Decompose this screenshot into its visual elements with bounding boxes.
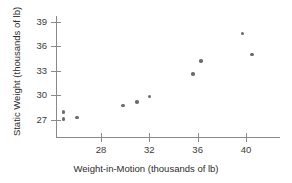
data-point xyxy=(191,72,195,76)
y-axis-title: Static Weight (thousands of lb) xyxy=(11,2,22,142)
y-tick-mark xyxy=(51,71,61,72)
data-point xyxy=(250,53,254,57)
y-tick-mark xyxy=(51,22,61,23)
x-axis-title: Weight-in-Motion (thousands of lb) xyxy=(0,163,292,174)
x-tick-label: 32 xyxy=(137,144,161,155)
x-tick-label: 40 xyxy=(234,144,258,155)
y-tick-label: 33 xyxy=(27,65,47,76)
data-point xyxy=(148,95,152,99)
data-point xyxy=(121,104,125,108)
data-point xyxy=(135,100,139,104)
x-tick-mark xyxy=(149,133,150,142)
y-tick-label: 27 xyxy=(27,114,47,125)
y-tick-mark xyxy=(51,120,61,121)
y-tick-label: 30 xyxy=(27,89,47,100)
data-point xyxy=(62,117,66,121)
y-tick-mark xyxy=(51,95,61,96)
x-tick-label: 28 xyxy=(89,144,113,155)
data-point xyxy=(62,110,66,114)
scatter-plot-figure: 2730333639 28323640 Static Weight (thous… xyxy=(0,0,292,183)
data-point xyxy=(199,59,203,63)
plot-area: 2730333639 28323640 Static Weight (thous… xyxy=(0,0,292,183)
x-tick-label: 36 xyxy=(186,144,210,155)
data-point xyxy=(241,32,245,36)
x-tick-mark xyxy=(246,133,247,142)
y-tick-label: 39 xyxy=(27,16,47,27)
y-tick-label: 36 xyxy=(27,40,47,51)
data-point xyxy=(75,116,79,120)
x-tick-mark xyxy=(198,133,199,142)
y-tick-mark xyxy=(51,46,61,47)
x-tick-mark xyxy=(101,133,102,142)
